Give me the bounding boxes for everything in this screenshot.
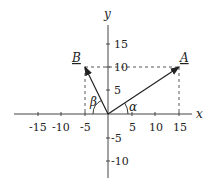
y-tick-label: 15: [114, 38, 128, 51]
alpha-arc: [125, 103, 128, 114]
vector-a-label: A: [179, 51, 189, 65]
x-tick-label: 10: [149, 121, 163, 134]
y-axis-label: y: [103, 7, 111, 21]
x-tick-label: -15: [29, 121, 47, 134]
y-tick-label: 10: [114, 61, 128, 74]
y-tick-label: -5: [111, 132, 122, 145]
x-tick-label: -5: [80, 121, 91, 134]
vector-b-label: B: [71, 51, 81, 65]
x-axis-label: x: [196, 107, 203, 121]
y-tick-label: -10: [111, 155, 129, 168]
x-tick-label: 15: [173, 121, 187, 134]
x-tick-label: 5: [129, 121, 136, 134]
vector-diagram: x y -15 -10 -5 5 10 15 15 10 5 -5 -10 A: [0, 0, 217, 192]
x-tick-label: -10: [52, 121, 70, 134]
beta-label: β: [89, 95, 97, 109]
alpha-label: α: [129, 100, 137, 114]
y-tick-label: 5: [114, 84, 121, 97]
